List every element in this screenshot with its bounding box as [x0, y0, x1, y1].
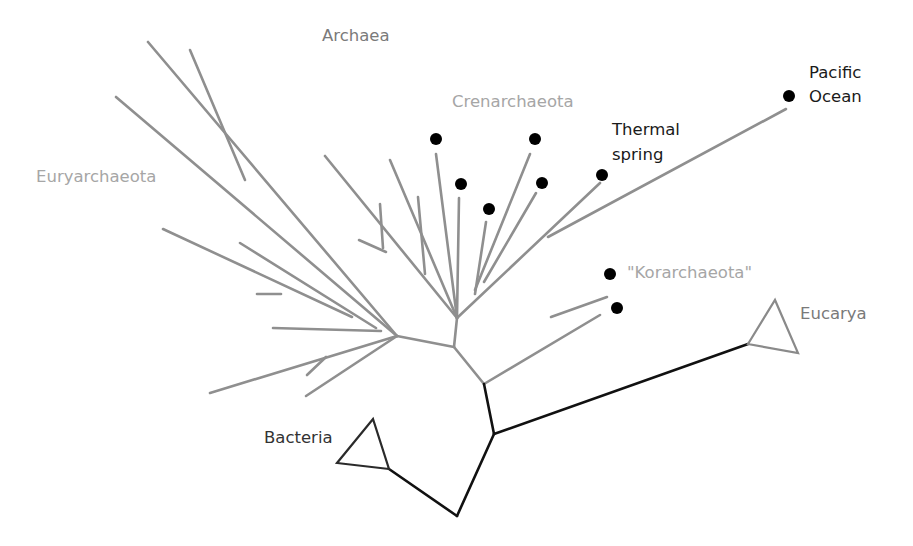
archaea-branch — [325, 156, 457, 318]
sample-site-dot — [529, 133, 541, 145]
archaea-branch — [551, 297, 607, 317]
sample-site-dot — [596, 169, 608, 181]
sample-site-dot — [783, 90, 795, 102]
archaea-branches — [116, 42, 786, 396]
archaea-branch — [454, 318, 457, 347]
label-crenarchaeota: Crenarchaeota — [452, 93, 574, 111]
archaea-branch — [190, 50, 245, 180]
label-thermal-spring-line2: spring — [612, 146, 663, 164]
archaea-branch — [397, 336, 454, 347]
archaea-branch — [273, 328, 381, 331]
label-archaea-domain: Archaea — [322, 27, 390, 45]
archaea-branch — [380, 204, 383, 248]
archaea-branch — [418, 197, 425, 274]
sample-site-dot — [430, 133, 442, 145]
root-branch — [484, 384, 494, 434]
sample-site-dot — [455, 178, 467, 190]
sample-site-dot — [536, 177, 548, 189]
root-branch — [389, 469, 457, 516]
archaea-branch — [457, 183, 600, 318]
root-branches — [389, 344, 748, 516]
sample-site-dot — [483, 203, 495, 215]
eucarya-collapsed-clade-triangle — [748, 300, 798, 353]
label-pacific-ocean-line1: Pacific — [809, 64, 861, 82]
label-pacific-ocean-line2: Ocean — [809, 88, 862, 106]
archaea-branch — [306, 336, 397, 396]
archaea-branch — [210, 336, 397, 393]
root-branch — [457, 434, 494, 516]
label-eucarya: Eucarya — [800, 305, 867, 323]
sample-site-dot — [604, 268, 616, 280]
archaea-branch — [116, 97, 397, 336]
archaea-branch — [454, 347, 484, 384]
label-bacteria: Bacteria — [264, 429, 333, 447]
archaea-branch — [148, 42, 397, 336]
sample-site-dot — [611, 302, 623, 314]
phylogenetic-tree-diagram: Archaea Euryarchaeota Crenarchaeota "Kor… — [0, 0, 913, 546]
label-thermal-spring-line1: Thermal — [612, 121, 680, 139]
archaea-branch — [484, 315, 600, 384]
bacteria-collapsed-clade-triangle — [337, 419, 389, 469]
label-euryarchaeota: Euryarchaeota — [36, 168, 156, 186]
tree-svg — [0, 0, 913, 546]
label-korarchaeota: "Korarchaeota" — [627, 264, 752, 282]
archaea-branch — [457, 198, 459, 318]
archaea-branch — [475, 154, 530, 290]
root-branch — [494, 344, 748, 434]
